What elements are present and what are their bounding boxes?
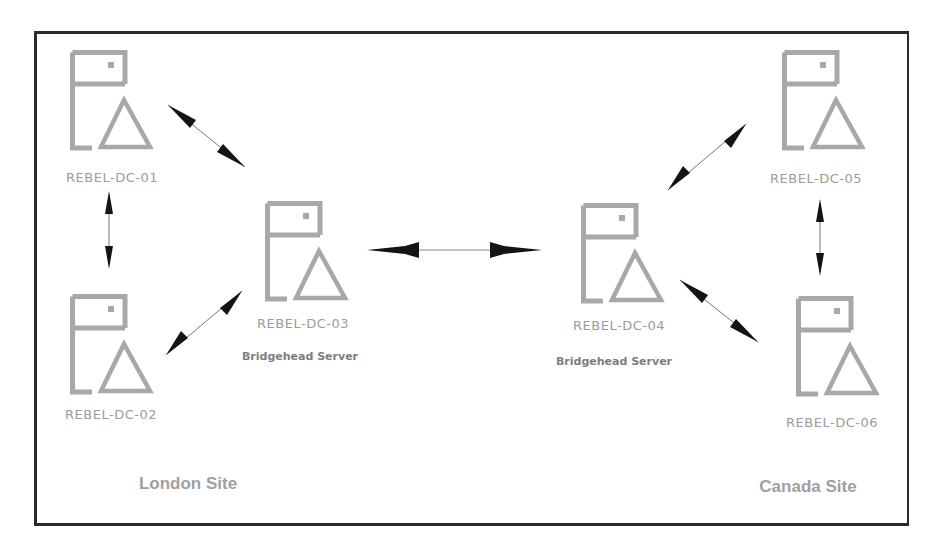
server-label-dc06: REBEL-DC-06 (786, 415, 878, 430)
arrow-dc03-dc04 (367, 242, 542, 258)
server-label-dc03: REBEL-DC-03 (257, 316, 349, 331)
server-label-dc05: REBEL-DC-05 (770, 171, 862, 186)
arrow-dc05-dc06 (816, 199, 824, 276)
arrow-dc01-dc02 (105, 191, 113, 269)
server-icon-dc06 (799, 299, 877, 395)
site-label-london: London Site (139, 474, 237, 494)
server-icon-dc03 (268, 204, 346, 300)
role-label-dc04: Bridgehead Server (556, 355, 672, 368)
site-label-canada: Canada Site (759, 477, 856, 497)
server-label-dc04: REBEL-DC-04 (573, 318, 665, 333)
diagram-canvas (0, 0, 935, 549)
server-icon-dc02 (73, 297, 151, 393)
server-icon-dc01 (73, 53, 151, 149)
server-label-dc02: REBEL-DC-02 (65, 407, 157, 422)
server-icon-dc05 (785, 53, 863, 149)
arrow-dc04-dc06 (680, 280, 758, 342)
arrow-dc04-dc05 (668, 124, 746, 190)
arrow-dc02-dc03 (166, 291, 242, 355)
role-label-dc03: Bridgehead Server (242, 350, 358, 363)
arrow-dc01-dc03 (168, 105, 245, 167)
server-label-dc01: REBEL-DC-01 (66, 170, 158, 185)
server-icon-dc04 (584, 206, 662, 302)
